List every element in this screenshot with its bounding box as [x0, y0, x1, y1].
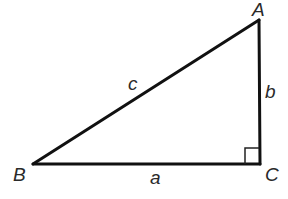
side-b — [259, 20, 260, 164]
vertex-label-b: B — [13, 164, 26, 185]
right-triangle-diagram: A B C c b a — [0, 0, 288, 199]
triangle-edges — [33, 20, 260, 164]
right-angle-marker — [245, 148, 259, 164]
side-c-hypotenuse — [33, 20, 259, 164]
vertex-label-c: C — [265, 164, 279, 185]
side-label-c: c — [128, 73, 138, 94]
side-label-b: b — [265, 81, 276, 102]
side-label-a: a — [150, 167, 161, 188]
vertex-label-a: A — [251, 0, 265, 20]
